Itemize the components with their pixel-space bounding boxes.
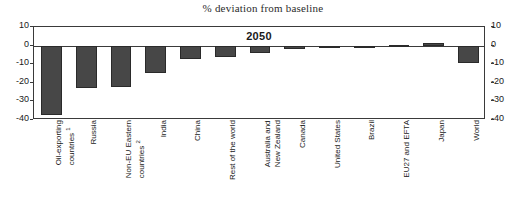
y-tick-mark [30,63,33,64]
bar [354,46,375,48]
x-category-label: United States [333,120,343,168]
bar [76,46,97,88]
x-category-label: Brazil [367,120,377,140]
y-tick-mark [491,119,494,120]
bar [41,46,62,116]
period-label: 2050 [34,30,484,42]
bar [423,43,444,46]
bar [319,46,340,48]
y-tick-mark [30,100,33,101]
x-category-label: EU27 and EFTA [402,120,412,178]
y-tick-mark [30,26,33,27]
y-tick-label: -30 [3,95,29,104]
y-tick-label: -30 [491,95,517,104]
x-category-label: Russia [89,120,99,144]
y-axis-left: 100-10-20-30-40 [3,26,29,119]
bar [180,46,201,59]
x-axis-category-labels: Oil-exportingcountries 1RussiaNon-EU Eas… [33,120,485,202]
y-tick-label: -20 [491,77,517,86]
chart-title: % deviation from baseline [0,2,526,14]
y-tick-mark [30,82,33,83]
bar [389,45,410,47]
y-tick-label: 10 [491,21,517,30]
bar [111,46,132,88]
x-category-label: Rest of the world [228,120,238,180]
x-category-label: China [193,120,203,141]
bar [250,46,271,53]
y-tick-label: 10 [3,21,29,30]
y-tick-mark [491,63,494,64]
bar [284,46,305,50]
x-category-label: Australia andNew Zealand [263,120,282,167]
y-tick-mark [491,45,494,46]
y-tick-mark [491,26,494,27]
x-category-label: Non-EU Easterncountries 2 [124,120,146,178]
plot-area: 2050 [33,26,485,119]
y-tick-mark [30,45,33,46]
y-tick-label: -10 [491,58,517,67]
y-tick-label: -40 [491,114,517,123]
x-category-label: Canada [298,120,308,148]
y-tick-label: -40 [3,114,29,123]
x-category-label: India [159,120,169,137]
chart-figure: % deviation from baseline 2050 100-10-20… [0,0,526,202]
x-category-label: Japan [437,120,447,142]
bar [458,46,479,63]
y-tick-mark [491,82,494,83]
y-tick-label: 0 [491,40,517,49]
y-tick-label: 0 [3,40,29,49]
x-category-label: World [472,120,482,141]
y-tick-label: -20 [3,77,29,86]
bar [215,46,236,57]
y-tick-label: -10 [3,58,29,67]
y-axis-right: 100-10-20-30-40 [491,26,521,119]
bar [145,46,166,74]
y-tick-mark [491,100,494,101]
x-category-label: Oil-exportingcountries 1 [54,120,76,165]
